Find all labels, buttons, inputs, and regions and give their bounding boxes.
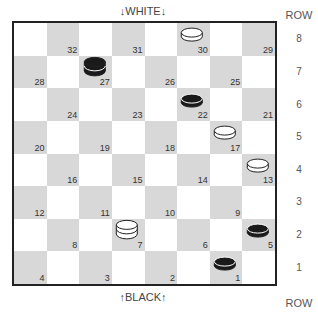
square-number: 23 bbox=[132, 110, 142, 120]
square-7[interactable]: 7 bbox=[112, 219, 145, 252]
square-28[interactable]: 28 bbox=[14, 56, 47, 89]
square-number: 11 bbox=[101, 208, 110, 218]
square-3[interactable]: 3 bbox=[79, 251, 112, 284]
square-8[interactable]: 8 bbox=[47, 219, 80, 252]
square-number: 29 bbox=[263, 45, 273, 55]
square-23[interactable]: 23 bbox=[112, 88, 145, 121]
light-square bbox=[79, 219, 112, 252]
square-14[interactable]: 14 bbox=[177, 154, 210, 187]
square-32[interactable]: 32 bbox=[47, 23, 80, 56]
square-19[interactable]: 19 bbox=[79, 121, 112, 154]
light-square bbox=[79, 88, 112, 121]
light-square bbox=[14, 154, 47, 187]
black-king-piece-icon[interactable] bbox=[82, 56, 106, 82]
row-number: 5 bbox=[280, 131, 318, 142]
square-number: 21 bbox=[263, 110, 273, 120]
row-header-top: ROW bbox=[280, 9, 318, 21]
light-square bbox=[210, 23, 243, 56]
square-25[interactable]: 25 bbox=[210, 56, 243, 89]
square-number: 24 bbox=[67, 110, 77, 120]
square-number: 20 bbox=[35, 143, 45, 153]
row-number: 6 bbox=[280, 99, 318, 110]
square-27[interactable]: 27 bbox=[79, 56, 112, 89]
light-square bbox=[145, 88, 178, 121]
square-11[interactable]: 11 bbox=[79, 186, 112, 219]
light-square bbox=[242, 251, 275, 284]
light-square bbox=[14, 88, 47, 121]
light-square bbox=[112, 251, 145, 284]
square-16[interactable]: 16 bbox=[47, 154, 80, 187]
square-number: 10 bbox=[165, 208, 175, 218]
square-13[interactable]: 13 bbox=[242, 154, 275, 187]
light-square bbox=[145, 154, 178, 187]
black-side-label: ↑BLACK↑ bbox=[0, 291, 286, 303]
square-5[interactable]: 5 bbox=[242, 219, 275, 252]
square-number: 18 bbox=[165, 143, 175, 153]
square-number: 6 bbox=[203, 240, 208, 250]
square-number: 2 bbox=[170, 273, 175, 283]
light-square bbox=[177, 186, 210, 219]
row-header-bottom: ROW bbox=[280, 297, 318, 309]
square-number: 14 bbox=[198, 175, 208, 185]
square-2[interactable]: 2 bbox=[145, 251, 178, 284]
square-number: 16 bbox=[67, 175, 77, 185]
square-26[interactable]: 26 bbox=[145, 56, 178, 89]
light-square bbox=[47, 186, 80, 219]
light-square bbox=[210, 88, 243, 121]
light-square bbox=[242, 56, 275, 89]
white-side-label: ↓WHITE↓ bbox=[0, 5, 286, 17]
light-square bbox=[47, 251, 80, 284]
light-square bbox=[177, 121, 210, 154]
square-21[interactable]: 21 bbox=[242, 88, 275, 121]
light-square bbox=[210, 219, 243, 252]
black-man-piece-icon[interactable] bbox=[213, 255, 237, 275]
light-square bbox=[242, 121, 275, 154]
checkers-board: 323130 292827 2625242322 bbox=[12, 21, 277, 286]
light-square bbox=[14, 23, 47, 56]
black-man-piece-icon[interactable] bbox=[245, 223, 269, 243]
square-4[interactable]: 4 bbox=[14, 251, 47, 284]
row-number: 1 bbox=[280, 262, 318, 273]
light-square bbox=[242, 186, 275, 219]
square-17[interactable]: 17 bbox=[210, 121, 243, 154]
row-number: 4 bbox=[280, 164, 318, 175]
square-number: 25 bbox=[230, 77, 240, 87]
white-man-piece-icon[interactable] bbox=[213, 125, 237, 145]
light-square bbox=[145, 23, 178, 56]
square-number: 19 bbox=[100, 143, 110, 153]
white-man-piece-icon[interactable] bbox=[180, 27, 204, 47]
light-square bbox=[47, 56, 80, 89]
row-number: 3 bbox=[280, 196, 318, 207]
square-number: 32 bbox=[67, 45, 77, 55]
square-30[interactable]: 30 bbox=[177, 23, 210, 56]
square-1[interactable]: 1 bbox=[210, 251, 243, 284]
square-29[interactable]: 29 bbox=[242, 23, 275, 56]
black-man-piece-icon[interactable] bbox=[180, 92, 204, 112]
light-square bbox=[79, 154, 112, 187]
square-10[interactable]: 10 bbox=[145, 186, 178, 219]
row-number: 8 bbox=[280, 33, 318, 44]
light-square bbox=[177, 56, 210, 89]
square-20[interactable]: 20 bbox=[14, 121, 47, 154]
square-22[interactable]: 22 bbox=[177, 88, 210, 121]
light-square bbox=[145, 219, 178, 252]
square-number: 28 bbox=[35, 77, 45, 87]
square-12[interactable]: 12 bbox=[14, 186, 47, 219]
square-24[interactable]: 24 bbox=[47, 88, 80, 121]
square-number: 12 bbox=[35, 208, 45, 218]
light-square bbox=[47, 121, 80, 154]
square-31[interactable]: 31 bbox=[112, 23, 145, 56]
square-number: 3 bbox=[105, 273, 110, 283]
white-man-piece-icon[interactable] bbox=[245, 157, 269, 177]
square-6[interactable]: 6 bbox=[177, 219, 210, 252]
square-number: 31 bbox=[132, 45, 142, 55]
light-square bbox=[112, 186, 145, 219]
square-18[interactable]: 18 bbox=[145, 121, 178, 154]
square-number: 15 bbox=[132, 175, 142, 185]
square-9[interactable]: 9 bbox=[210, 186, 243, 219]
white-king-piece-icon[interactable] bbox=[115, 219, 139, 245]
light-square bbox=[112, 56, 145, 89]
square-15[interactable]: 15 bbox=[112, 154, 145, 187]
light-square bbox=[112, 121, 145, 154]
square-number: 9 bbox=[235, 208, 240, 218]
